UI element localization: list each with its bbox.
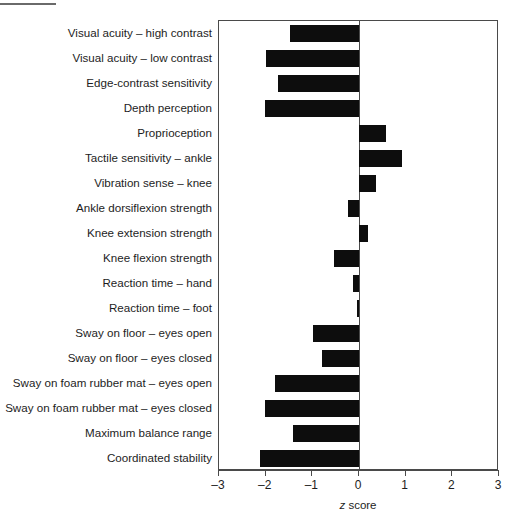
- x-tick: [218, 470, 219, 476]
- category-label: Sway on floor – eyes closed: [0, 351, 212, 364]
- bar-row: [219, 350, 497, 367]
- bar-row: [219, 150, 497, 167]
- bar: [260, 450, 359, 467]
- category-label: Sway on foam rubber mat – eyes closed: [0, 401, 212, 414]
- category-label-column: Visual acuity – high contrastVisual acui…: [0, 20, 212, 470]
- category-label: Reaction time – hand: [0, 276, 212, 289]
- bar: [275, 375, 359, 392]
- x-tick: [265, 470, 266, 476]
- x-tick-label: 0: [343, 478, 373, 492]
- category-label: Ankle dorsiflexion strength: [0, 201, 212, 214]
- x-tick-label: –3: [203, 478, 233, 492]
- x-axis-title: z score: [218, 499, 498, 511]
- bar-row: [219, 400, 497, 417]
- category-label: Reaction time – foot: [0, 301, 212, 314]
- category-label: Visual acuity – high contrast: [0, 26, 212, 39]
- bar: [313, 325, 359, 342]
- x-tick-label: 1: [390, 478, 420, 492]
- bar: [357, 300, 359, 317]
- bar: [359, 125, 386, 142]
- category-label: Knee flexion strength: [0, 251, 212, 264]
- bar-row: [219, 200, 497, 217]
- x-tick-label: 3: [483, 478, 513, 492]
- bar-row: [219, 375, 497, 392]
- category-label: Maximum balance range: [0, 426, 212, 439]
- bar-row: [219, 275, 497, 292]
- x-tick: [311, 470, 312, 476]
- bar: [353, 275, 359, 292]
- top-horizontal-rule: [0, 3, 56, 5]
- bar: [322, 350, 359, 367]
- bar-row: [219, 250, 497, 267]
- category-label: Sway on floor – eyes open: [0, 326, 212, 339]
- bar-row: [219, 450, 497, 467]
- x-axis-title-score: score: [345, 499, 376, 511]
- bar: [290, 25, 359, 42]
- bar-row: [219, 25, 497, 42]
- bar: [334, 250, 359, 267]
- bar-row: [219, 125, 497, 142]
- bar: [359, 150, 402, 167]
- category-label: Depth perception: [0, 101, 212, 114]
- category-label: Knee extension strength: [0, 226, 212, 239]
- category-label: Tactile sensitivity – ankle: [0, 151, 212, 164]
- x-tick-label: –2: [250, 478, 280, 492]
- bar: [293, 425, 359, 442]
- bar-row: [219, 75, 497, 92]
- bar: [266, 50, 359, 67]
- x-tick: [451, 470, 452, 476]
- category-label: Proprioception: [0, 126, 212, 139]
- category-label: Vibration sense – knee: [0, 176, 212, 189]
- x-tick-label: –1: [296, 478, 326, 492]
- x-tick: [498, 470, 499, 476]
- bar-row: [219, 325, 497, 342]
- category-label: Visual acuity – low contrast: [0, 51, 212, 64]
- bar: [359, 225, 368, 242]
- bar-row: [219, 100, 497, 117]
- plot-area: [218, 20, 498, 470]
- bar: [265, 400, 359, 417]
- bar: [278, 75, 359, 92]
- bar-row: [219, 300, 497, 317]
- x-tick-label: 2: [436, 478, 466, 492]
- x-axis-line: –3–2–10123: [218, 470, 498, 471]
- category-label: Coordinated stability: [0, 451, 212, 464]
- x-tick: [405, 470, 406, 476]
- bar: [348, 200, 359, 217]
- bar: [265, 100, 359, 117]
- category-label: Edge-contrast sensitivity: [0, 76, 212, 89]
- bar: [359, 175, 376, 192]
- bar-row: [219, 425, 497, 442]
- bar-row: [219, 50, 497, 67]
- x-tick: [358, 470, 359, 476]
- bar-row: [219, 225, 497, 242]
- figure-chart: Visual acuity – high contrastVisual acui…: [0, 0, 525, 529]
- bar-row: [219, 175, 497, 192]
- category-label: Sway on foam rubber mat – eyes open: [0, 376, 212, 389]
